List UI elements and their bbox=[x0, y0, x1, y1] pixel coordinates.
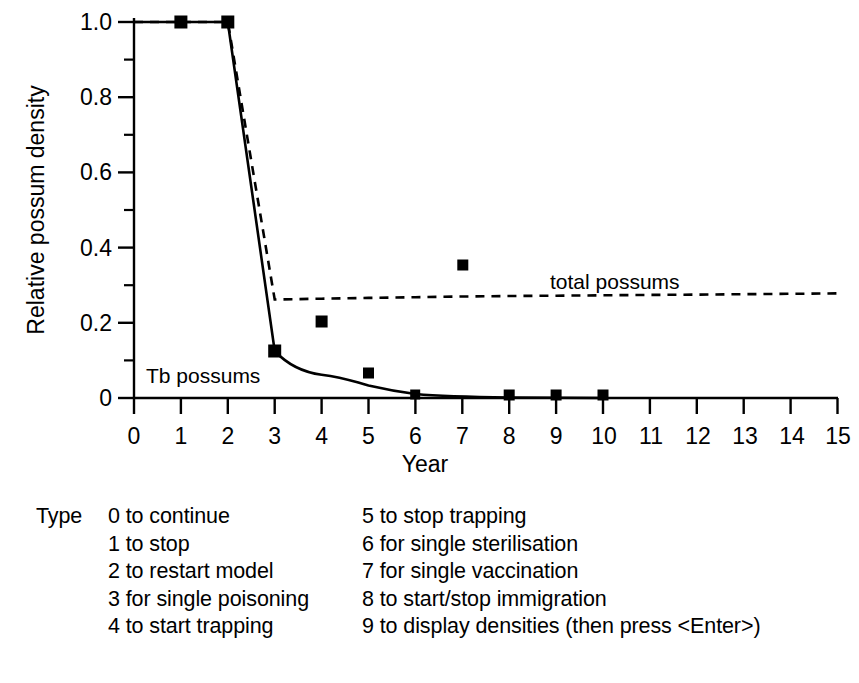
x-tick-label-15: 15 bbox=[825, 423, 851, 449]
y-tick-label-02: 0.2 bbox=[80, 310, 112, 336]
data-point-y9 bbox=[551, 390, 562, 401]
menu-row: 4 to start trapping 9 to display densiti… bbox=[36, 613, 836, 641]
y-axis-title: Relative possum density bbox=[23, 85, 49, 335]
y-tick-label-04: 0.4 bbox=[80, 235, 112, 261]
data-point-y5 bbox=[363, 368, 374, 379]
x-tick-label-10: 10 bbox=[591, 423, 617, 449]
data-point-y1 bbox=[174, 16, 187, 29]
data-point-y2 bbox=[221, 16, 234, 29]
menu-item-5[interactable]: 5 to stop trapping bbox=[362, 503, 526, 531]
y-tick-label-0: 0 bbox=[99, 385, 112, 411]
x-tick-label-7: 7 bbox=[456, 423, 469, 449]
x-axis-title: Year bbox=[402, 451, 449, 477]
menu-item-9[interactable]: 9 to display densities (then press <Ente… bbox=[362, 613, 760, 641]
y-tick-label-08: 0.8 bbox=[80, 84, 112, 110]
x-tick-label-9: 9 bbox=[550, 423, 563, 449]
y-tick-label-06: 0.6 bbox=[80, 159, 112, 185]
data-point-y4 bbox=[316, 316, 328, 328]
menu-item-4[interactable]: 4 to start trapping bbox=[108, 613, 362, 641]
x-tick-label-8: 8 bbox=[503, 423, 516, 449]
menu-item-7[interactable]: 7 for single vaccination bbox=[362, 558, 578, 586]
data-point-y7 bbox=[457, 260, 468, 271]
x-tick-label-5: 5 bbox=[362, 423, 375, 449]
x-tick-label-4: 4 bbox=[315, 423, 328, 449]
y-axis-minor-ticks bbox=[124, 60, 134, 361]
x-tick-label-2: 2 bbox=[221, 423, 234, 449]
x-tick-label-3: 3 bbox=[268, 423, 281, 449]
data-point-y6 bbox=[410, 390, 420, 400]
total-possums-annotation: total possums bbox=[550, 270, 680, 293]
command-menu: Type 0 to continue 5 to stop trapping 1 … bbox=[36, 503, 836, 641]
x-axis-ticks bbox=[134, 398, 838, 414]
menu-item-2[interactable]: 2 to restart model bbox=[108, 558, 362, 586]
menu-row: 1 to stop 6 for single sterilisation bbox=[36, 531, 836, 559]
data-point-markers bbox=[174, 16, 608, 401]
data-point-y10 bbox=[598, 390, 609, 401]
x-tick-label-13: 13 bbox=[732, 423, 758, 449]
menu-item-3[interactable]: 3 for single poisoning bbox=[108, 586, 362, 614]
menu-row: 3 for single poisoning 8 to start/stop i… bbox=[36, 586, 836, 614]
x-tick-label-11: 11 bbox=[639, 423, 663, 449]
menu-row: Type 0 to continue 5 to stop trapping bbox=[36, 503, 836, 531]
menu-prompt: Type bbox=[36, 503, 108, 531]
total-possums-line bbox=[134, 22, 838, 300]
x-tick-label-6: 6 bbox=[409, 423, 422, 449]
possum-density-figure: 0 0.2 0.4 0.6 0.8 1.0 Relative possum de… bbox=[0, 0, 859, 683]
x-tick-label-14: 14 bbox=[779, 423, 805, 449]
menu-item-1[interactable]: 1 to stop bbox=[108, 531, 362, 559]
menu-item-0[interactable]: 0 to continue bbox=[108, 503, 362, 531]
menu-item-8[interactable]: 8 to start/stop immigration bbox=[362, 586, 607, 614]
x-tick-label-0: 0 bbox=[128, 423, 141, 449]
possum-density-chart: 0 0.2 0.4 0.6 0.8 1.0 Relative possum de… bbox=[0, 0, 859, 500]
data-point-y8 bbox=[504, 390, 515, 401]
y-tick-label-10: 1.0 bbox=[80, 9, 112, 35]
x-tick-label-12: 12 bbox=[685, 423, 711, 449]
menu-row: 2 to restart model 7 for single vaccinat… bbox=[36, 558, 836, 586]
tb-possums-line bbox=[134, 22, 603, 398]
menu-item-6[interactable]: 6 for single sterilisation bbox=[362, 531, 578, 559]
x-tick-label-1: 1 bbox=[175, 423, 188, 449]
data-point-y3 bbox=[268, 345, 281, 358]
tb-possums-annotation: Tb possums bbox=[146, 364, 260, 387]
